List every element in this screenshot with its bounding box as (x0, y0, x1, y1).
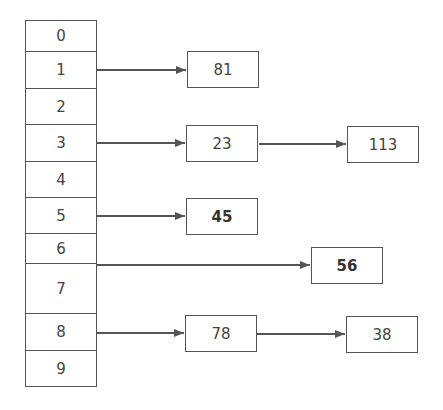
node-38: 38 (346, 316, 418, 353)
bucket-2: 2 (25, 88, 97, 125)
node-113: 113 (347, 126, 419, 163)
node-45: 45 (186, 198, 258, 235)
bucket-6: 6 (25, 233, 97, 264)
node-23: 23 (186, 125, 258, 162)
node-56: 56 (311, 247, 383, 284)
node-78: 78 (185, 315, 257, 352)
bucket-9: 9 (25, 350, 97, 387)
bucket-0: 0 (25, 20, 97, 52)
bucket-4: 4 (25, 161, 97, 198)
bucket-1: 1 (25, 51, 97, 89)
bucket-8: 8 (25, 313, 97, 351)
bucket-7: 7 (25, 263, 97, 314)
node-81: 81 (187, 51, 259, 88)
bucket-3: 3 (25, 124, 97, 162)
bucket-5: 5 (25, 197, 97, 234)
